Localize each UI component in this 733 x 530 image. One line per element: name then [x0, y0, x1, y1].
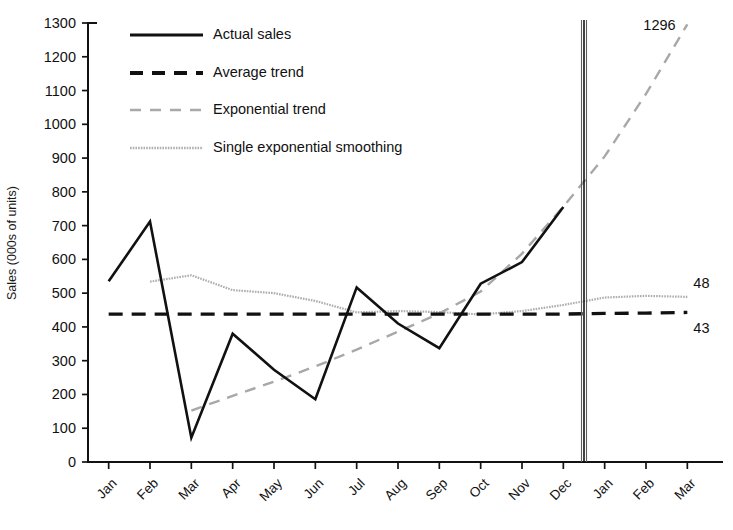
x-tick-label: Sep	[423, 476, 451, 504]
y-axis-ticks: 0100200300400500600700800900100011001200…	[44, 15, 88, 470]
x-axis-ticks: JanFebMarAprMayJunJulAugSepOctNovDecJanF…	[94, 462, 699, 504]
y-tick-label: 200	[52, 386, 76, 402]
x-tick-label: Aug	[382, 476, 410, 504]
series-exponential-trend	[191, 24, 687, 410]
annotation-average-trend-value: 43	[693, 320, 709, 336]
y-axis-title: Sales (000s of units)	[5, 186, 19, 300]
x-tick-label: Dec	[547, 475, 575, 503]
y-tick-label: 100	[52, 420, 76, 436]
y-tick-label: 1300	[44, 15, 76, 31]
series-actual-sales	[109, 207, 564, 438]
endpoint-annotations: 1296 48 43	[643, 17, 709, 336]
legend-label-average-trend: Average trend	[213, 64, 304, 80]
y-tick-label: 1200	[44, 49, 76, 65]
annotation-smoothing-value: 48	[693, 275, 709, 291]
legend-item-average-trend[interactable]: Average trend	[130, 64, 304, 80]
y-tick-label: 400	[52, 319, 76, 335]
annotation-exponential-trend-value: 1296	[643, 17, 675, 33]
legend-label-single-exponential-smoothing: Single exponential smoothing	[213, 139, 402, 155]
sales-forecast-chart: Sales (000s of units) 010020030040050060…	[0, 0, 733, 530]
x-tick-label: May	[256, 475, 285, 504]
y-tick-label: 1000	[44, 116, 76, 132]
y-tick-label: 900	[52, 150, 76, 166]
y-tick-label: 0	[68, 454, 76, 470]
y-tick-label: 700	[52, 218, 76, 234]
x-tick-label: Nov	[506, 475, 534, 503]
x-tick-label: Jun	[300, 476, 326, 502]
series-average-trend	[109, 312, 688, 314]
y-tick-label: 300	[52, 353, 76, 369]
series-single-exponential-smoothing	[150, 275, 687, 314]
plot-series-group	[109, 24, 688, 437]
y-tick-label: 600	[52, 251, 76, 267]
chart-container: Sales (000s of units) 010020030040050060…	[0, 0, 733, 530]
x-tick-label: Oct	[466, 475, 492, 501]
chart-legend: Actual sales Average trend Exponential t…	[130, 26, 402, 155]
x-tick-label: Jul	[345, 476, 368, 499]
x-tick-label: Feb	[134, 476, 161, 503]
x-tick-label: Feb	[630, 476, 657, 503]
legend-label-actual-sales: Actual sales	[213, 26, 291, 42]
y-tick-label: 1100	[45, 83, 76, 99]
legend-item-exponential-trend[interactable]: Exponential trend	[130, 101, 326, 117]
legend-label-exponential-trend: Exponential trend	[213, 101, 326, 117]
y-tick-label: 500	[52, 285, 76, 301]
x-tick-label: Mar	[671, 475, 698, 502]
y-tick-label: 800	[52, 184, 76, 200]
forecast-divider	[582, 20, 587, 462]
x-tick-label: Mar	[175, 475, 202, 502]
y-axis-title-text: Sales (000s of units)	[5, 186, 19, 300]
x-tick-label: Jan	[94, 476, 120, 502]
x-tick-label: Apr	[218, 475, 244, 501]
legend-item-actual-sales[interactable]: Actual sales	[130, 26, 291, 42]
legend-item-single-exponential-smoothing[interactable]: Single exponential smoothing	[130, 139, 402, 155]
x-tick-label: Jan	[590, 476, 616, 502]
